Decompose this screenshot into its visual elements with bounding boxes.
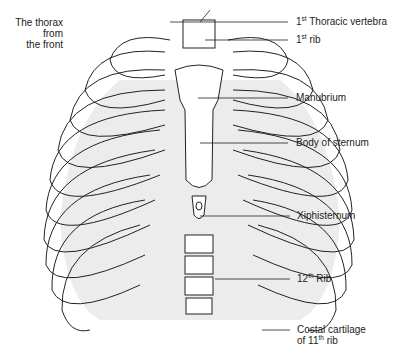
thorax-illustration (0, 0, 398, 353)
title-line-2: from (8, 28, 63, 39)
label-twelfth-rib: 12th Rib (297, 273, 331, 284)
label-manubrium: Manubrium (296, 92, 346, 103)
label-body-of-sternum: Body of sternum (296, 137, 369, 148)
title-line-3: the front (8, 39, 63, 50)
label-xiphisternum: Xiphisternum (297, 210, 355, 221)
figure-title: The thorax from the front (8, 17, 63, 50)
title-line-1: The thorax (8, 17, 63, 28)
label-first-thoracic-vertebra: 1st Thoracic vertebra (296, 16, 387, 27)
label-first-rib: 1st rib (296, 34, 321, 45)
label-costal-cartilage: Costal cartilage of 11th rib (297, 324, 366, 346)
